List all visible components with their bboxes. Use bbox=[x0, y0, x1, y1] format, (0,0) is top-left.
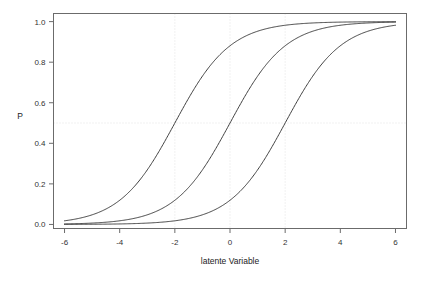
x-tick-label: 2 bbox=[283, 238, 288, 247]
y-tick-label: 0.8 bbox=[34, 58, 46, 67]
logistic-curves-plot: -6-4-20246 0.00.20.40.60.81.0 latente Va… bbox=[0, 0, 423, 283]
x-tick-label: -2 bbox=[171, 238, 179, 247]
y-tick-label: 0.0 bbox=[34, 220, 46, 229]
x-tick-label: 4 bbox=[338, 238, 343, 247]
y-tick-label: 0.4 bbox=[34, 139, 46, 148]
x-tick-label: -6 bbox=[61, 238, 69, 247]
x-tick-label: 0 bbox=[228, 238, 233, 247]
y-axis-label: P bbox=[17, 111, 23, 121]
x-tick-label: -4 bbox=[116, 238, 124, 247]
y-tick-label: 1.0 bbox=[34, 18, 46, 27]
x-axis-label: latente Variable bbox=[201, 256, 260, 266]
y-tick-label: 0.2 bbox=[34, 180, 46, 189]
x-tick-label: 6 bbox=[393, 238, 398, 247]
chart-figure: -6-4-20246 0.00.20.40.60.81.0 latente Va… bbox=[0, 0, 423, 283]
y-tick-label: 0.6 bbox=[34, 99, 46, 108]
